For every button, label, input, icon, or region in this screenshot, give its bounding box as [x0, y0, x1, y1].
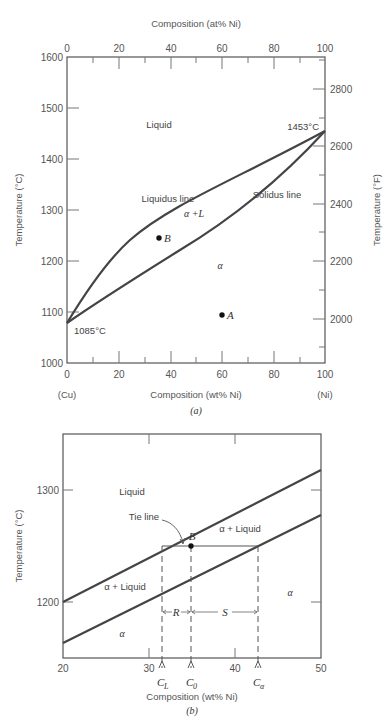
b-x-tick-20: 20: [57, 663, 69, 674]
b-alpha-right-label: α: [287, 587, 293, 598]
bottom-x-tick-labels: 0 20 40 60 80 100: [64, 369, 334, 380]
x-tick-100: 100: [317, 369, 334, 380]
b-alpha-left-label: α: [119, 628, 125, 639]
r-label: R: [172, 606, 180, 618]
top-ticks: [93, 57, 300, 69]
phase-diagram-figure: Composition (at% Ni) 0 20 40 60 80 100: [0, 0, 388, 719]
top-tick-20: 20: [113, 43, 125, 54]
c-l-marker-label: C L: [157, 676, 169, 691]
x-tick-40: 40: [165, 369, 177, 380]
b-point-b-label: B: [189, 530, 196, 542]
c-0-marker-label: C 0: [186, 676, 197, 691]
top-tick-0: 0: [64, 43, 70, 54]
left-axis-title: Temperature (°C): [13, 174, 24, 247]
cu-end-label: (Cu): [58, 389, 76, 400]
svg-text:α: α: [260, 682, 265, 691]
right-ticks: [313, 60, 325, 347]
y-tick-1200: 1200: [41, 256, 64, 267]
y-tick-1000: 1000: [41, 358, 64, 369]
y-tick-1500: 1500: [41, 103, 64, 114]
svg-text:0: 0: [193, 682, 197, 691]
tie-line-label: Tie line: [129, 511, 159, 522]
bottom-ticks: [93, 351, 300, 363]
b-liquid-label: Liquid: [119, 486, 144, 497]
point-a-marker: [219, 312, 224, 317]
b-x-tick-50: 50: [315, 663, 327, 674]
cu-melting-point-label: 1085°C: [74, 325, 106, 336]
point-b-marker: [156, 235, 161, 240]
left-y-tick-labels: 1600 1500 1400 1300 1200 1100 1000: [41, 52, 64, 369]
c-alpha-marker-label: C α: [253, 676, 265, 691]
y-tick-1400: 1400: [41, 154, 64, 165]
panel-a: Composition (at% Ni) 0 20 40 60 80 100: [13, 18, 382, 417]
point-b-label: B: [164, 232, 171, 244]
liquid-region-label: Liquid: [146, 119, 171, 130]
top-axis-title: Composition (at% Ni): [151, 18, 241, 29]
point-a-label: A: [226, 309, 234, 321]
right-y-tick-labels: 2800 2600 2400 2200 2000: [330, 84, 353, 325]
f-tick-2800: 2800: [330, 84, 353, 95]
alpha-plus-l-label: α +L: [184, 208, 204, 219]
solidus-curve: [67, 131, 325, 323]
x-tick-20: 20: [113, 369, 125, 380]
panel-b: 1300 1200 Temperature (°C) R: [13, 434, 327, 717]
top-tick-80: 80: [268, 43, 280, 54]
f-tick-2400: 2400: [330, 199, 353, 210]
b-x-tick-30: 30: [143, 663, 155, 674]
liquidus-line-label: Liquidus line: [142, 193, 195, 204]
x-tick-80: 80: [268, 369, 280, 380]
f-tick-2000: 2000: [330, 314, 353, 325]
caption-a: (a): [190, 405, 202, 417]
y-tick-1300: 1300: [41, 205, 64, 216]
composition-arrows: [159, 661, 261, 668]
top-tick-40: 40: [165, 43, 177, 54]
y-tick-1600: 1600: [41, 52, 64, 63]
left-ticks: [67, 108, 79, 312]
alpha-region-label: α: [217, 260, 223, 271]
b-y-tick-1200: 1200: [37, 597, 60, 608]
b-left-axis-title: Temperature (°C): [13, 510, 24, 583]
f-tick-2600: 2600: [330, 141, 353, 152]
x-tick-0: 0: [64, 369, 70, 380]
s-label: S: [222, 606, 228, 618]
b-alpha-liquid-right-label: α + Liquid: [219, 523, 261, 534]
top-tick-100: 100: [317, 43, 334, 54]
b-y-tick-1300: 1300: [37, 485, 60, 496]
b-bottom-axis-title: Composition (wt% Ni): [146, 691, 237, 702]
ni-end-label: (Ni): [317, 389, 332, 400]
ni-melting-point-label: 1453°C: [287, 121, 319, 132]
b-alpha-liquid-left-label: α + Liquid: [104, 581, 146, 592]
top-x-tick-labels: 0 20 40 60 80 100: [64, 43, 334, 54]
x-tick-60: 60: [216, 369, 228, 380]
b-x-tick-40: 40: [229, 663, 241, 674]
y-tick-1100: 1100: [41, 307, 63, 318]
f-tick-2200: 2200: [330, 256, 353, 267]
b-point-b-marker: [188, 543, 193, 548]
svg-text:L: L: [163, 682, 169, 691]
liquidus-curve: [67, 131, 325, 323]
top-tick-60: 60: [216, 43, 228, 54]
caption-b: (b): [186, 705, 198, 717]
solidus-line-label: Solidus line: [253, 189, 302, 200]
bottom-axis-title: Composition (wt% Ni): [150, 389, 241, 400]
right-axis-title: Temperature (°F): [371, 174, 382, 246]
